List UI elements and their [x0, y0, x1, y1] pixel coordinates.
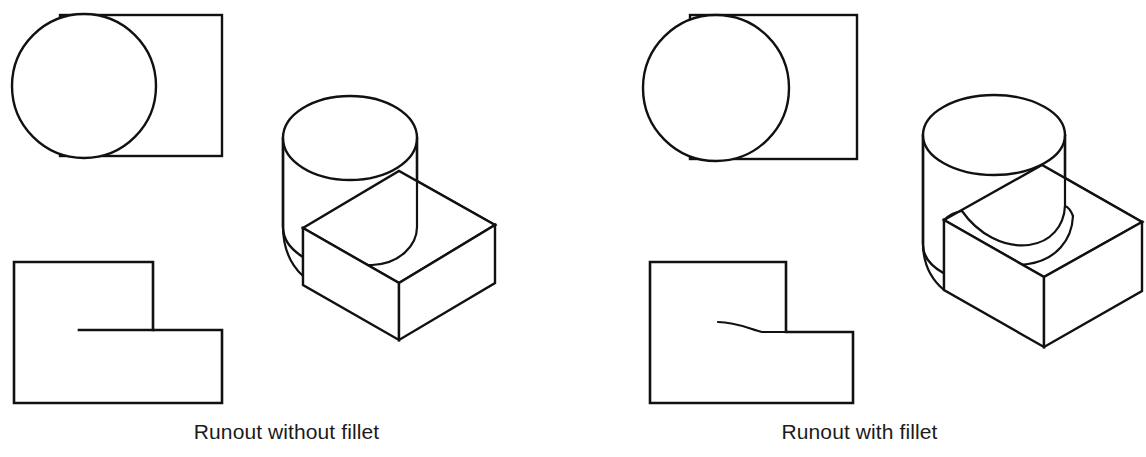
right-front-view [650, 262, 853, 403]
right-iso-cylinder-top-ellipse [923, 95, 1065, 175]
left-top-view-circle [12, 14, 156, 158]
right-front-view-outline [650, 262, 853, 403]
right-isometric-view [923, 95, 1142, 347]
right-panel-group [643, 15, 1142, 403]
left-front-view [14, 262, 222, 403]
left-panel-group [12, 14, 495, 403]
engineering-drawing-canvas [0, 0, 1146, 457]
right-top-view [643, 15, 857, 161]
right-top-view-circle [643, 15, 789, 161]
left-iso-cylinder-top-ellipse [283, 96, 417, 180]
figure-root: Runout without fillet Runout with fillet [0, 0, 1146, 457]
caption-runout-without-fillet: Runout without fillet [0, 421, 573, 442]
left-front-view-outline [14, 262, 222, 403]
right-front-view-runout-curved-line [718, 322, 786, 332]
left-isometric-view [283, 96, 495, 340]
left-top-view [12, 14, 222, 158]
caption-runout-with-fillet: Runout with fillet [573, 421, 1146, 442]
